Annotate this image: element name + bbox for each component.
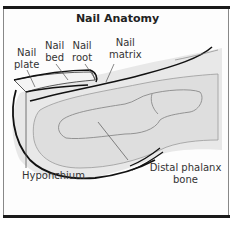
label-nail-root: Nail root [72, 40, 92, 64]
label-nail-bed: Nail bed [45, 40, 64, 64]
label-nail-matrix: Nail matrix [109, 37, 142, 61]
label-distal-phalanx: Distal phalanx bone [136, 162, 235, 186]
label-hyponchium: Hyponchium [22, 170, 85, 182]
finger-illustration [0, 0, 235, 227]
label-nail-plate: Nail plate [14, 47, 39, 71]
